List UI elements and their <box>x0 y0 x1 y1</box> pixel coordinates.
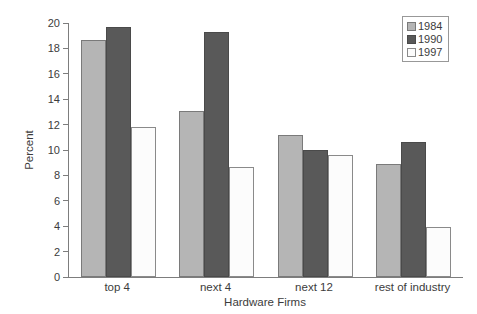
y-tick-label: 16 <box>48 68 60 80</box>
x-category-label-rest-of-industry: rest of industry <box>375 281 450 293</box>
legend-label-1984: 1984 <box>418 20 442 32</box>
bar-1984-rest-of-industry <box>376 164 401 277</box>
x-axis-title: Hardware Firms <box>68 296 462 308</box>
y-tick-label: 18 <box>48 42 60 54</box>
y-tick-label: 14 <box>48 93 60 105</box>
y-tick-14: 14 <box>0 92 68 106</box>
bar-1990-rest-of-industry <box>401 142 426 277</box>
bar-1990-next-12 <box>303 150 328 277</box>
x-category-label-top-4: top 4 <box>80 281 155 293</box>
y-axis: 02468101214161820 <box>0 23 68 277</box>
bar-chart-figure: Percent 02468101214161820 top 4next 4nex… <box>0 0 477 314</box>
bar-1997-next-4 <box>229 167 254 277</box>
y-tick-6: 6 <box>0 194 68 208</box>
legend-swatch-1990 <box>407 35 416 44</box>
y-tick-4: 4 <box>0 219 68 233</box>
y-tick-16: 16 <box>0 67 68 81</box>
legend-label-1997: 1997 <box>418 46 442 58</box>
y-tick-label: 6 <box>54 195 60 207</box>
y-tick-2: 2 <box>0 245 68 259</box>
legend-item-1997: 1997 <box>407 46 442 58</box>
legend-swatch-1997 <box>407 48 416 57</box>
legend-label-1990: 1990 <box>418 33 442 45</box>
y-tick-18: 18 <box>0 41 68 55</box>
y-tick-20: 20 <box>0 16 68 30</box>
bar-1984-next-12 <box>278 135 303 277</box>
bar-1984-next-4 <box>179 111 204 277</box>
y-tick-label: 12 <box>48 119 60 131</box>
y-tick-label: 20 <box>48 17 60 29</box>
bar-1997-next-12 <box>328 155 353 277</box>
bar-1997-rest-of-industry <box>426 227 451 277</box>
bar-1990-next-4 <box>204 32 229 277</box>
x-category-labels: top 4next 4next 12rest of industry <box>68 281 462 293</box>
legend-item-1984: 1984 <box>407 20 442 32</box>
bar-1984-top-4 <box>81 40 106 277</box>
y-tick-10: 10 <box>0 143 68 157</box>
x-category-label-next-12: next 12 <box>276 281 351 293</box>
y-tick-12: 12 <box>0 118 68 132</box>
legend: 1984 1990 1997 <box>402 16 449 62</box>
legend-item-1990: 1990 <box>407 33 442 45</box>
y-tick-8: 8 <box>0 168 68 182</box>
y-tick-label: 2 <box>54 246 60 258</box>
y-tick-label: 8 <box>54 169 60 181</box>
y-tick-label: 4 <box>54 220 60 232</box>
bar-group-top-4 <box>81 23 156 277</box>
y-tick-label: 0 <box>54 271 60 283</box>
bar-group-next-12 <box>278 23 353 277</box>
x-category-label-next-4: next 4 <box>178 281 253 293</box>
y-tick-0: 0 <box>0 270 68 284</box>
legend-swatch-1984 <box>407 22 416 31</box>
bar-group-next-4 <box>179 23 254 277</box>
bar-1997-top-4 <box>131 127 156 277</box>
y-tick-label: 10 <box>48 144 60 156</box>
bar-1990-top-4 <box>106 27 131 277</box>
